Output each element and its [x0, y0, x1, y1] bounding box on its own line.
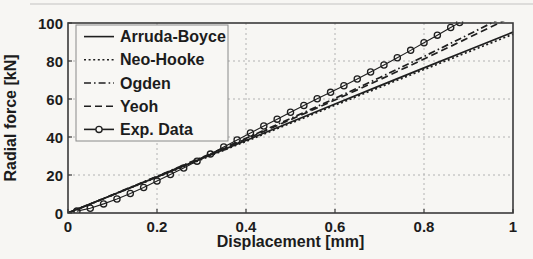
- legend-label: Arruda-Boyce: [120, 28, 226, 45]
- y-axis-tick-label-60: 60: [46, 91, 63, 108]
- legend-label: Exp. Data: [120, 121, 193, 138]
- x-axis-tick-label-0.2: 0.2: [147, 218, 168, 235]
- x-axis-label: Displacement [mm]: [217, 233, 365, 250]
- legend-label: Ogden: [120, 75, 171, 92]
- legend-label: Yeoh: [120, 98, 158, 115]
- legend: Arruda-BoyceNeo-HookeOgdenYeohExp. Data: [76, 25, 228, 141]
- y-axis-tick-label-20: 20: [46, 167, 63, 184]
- y-axis-label: Radial force [kN]: [2, 54, 19, 181]
- x-axis-tick-label-0: 0: [64, 218, 72, 235]
- radial-force-chart: 00.20.40.60.81020406080100Displacement […: [0, 0, 533, 259]
- y-axis-tick-label-0: 0: [55, 205, 63, 222]
- y-axis-tick-label-40: 40: [46, 129, 63, 146]
- x-axis-tick-label-0.8: 0.8: [414, 218, 435, 235]
- y-axis-tick-label-80: 80: [46, 53, 63, 70]
- legend-sample-circle-marker: [96, 126, 102, 132]
- x-axis-tick-label-1: 1: [509, 218, 517, 235]
- y-axis-tick-label-100: 100: [38, 15, 63, 32]
- legend-label: Neo-Hooke: [120, 51, 205, 68]
- radial-force-figure: 00.20.40.60.81020406080100Displacement […: [0, 0, 533, 259]
